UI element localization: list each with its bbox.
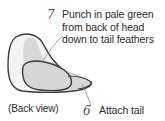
step-7-line-1: Punch in pale green — [62, 8, 154, 21]
step-7-line-3: down to tail feathers — [62, 33, 154, 46]
bird-back-view-diagram: 7 Punch in pale green from back of head … — [0, 0, 165, 121]
step-6-instruction: Attach tail — [99, 104, 144, 117]
step-7-line-2: from back of head — [62, 21, 154, 34]
back-view-caption: (Back view) — [8, 103, 59, 116]
step-7-number: 7 — [47, 9, 55, 21]
step-6-number: 6 — [83, 105, 91, 117]
step-7-instruction: Punch in pale green from back of head do… — [62, 8, 154, 46]
